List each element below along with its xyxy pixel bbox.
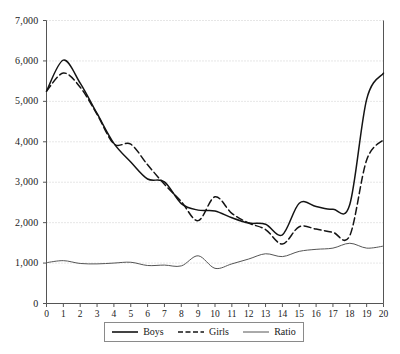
legend-label: Boys [143, 327, 164, 337]
data-series [47, 60, 384, 269]
legend-entry-girls[interactable]: Girls [178, 327, 229, 337]
series-line-girls [47, 73, 384, 244]
y-tick-label: 2,000 [0, 218, 39, 228]
y-tick-label: 0 [0, 299, 39, 309]
legend-swatch-boys-icon [112, 328, 138, 336]
y-tick-label: 4,000 [0, 137, 39, 147]
y-tick-label: 5,000 [0, 96, 39, 106]
legend-entry-ratio[interactable]: Ratio [243, 327, 296, 337]
series-line-boys [47, 60, 384, 235]
legend-swatch-girls-icon [178, 328, 204, 336]
chart-legend: BoysGirlsRatio [104, 322, 304, 342]
y-tick-label: 7,000 [0, 16, 39, 26]
legend-entry-boys[interactable]: Boys [112, 327, 164, 337]
gridlines [47, 21, 384, 264]
y-tick-label: 1,000 [0, 258, 39, 268]
line-chart: 01,0002,0003,0004,0005,0006,0007,000 012… [0, 0, 400, 354]
plot-area [0, 0, 400, 354]
y-tick-label: 3,000 [0, 177, 39, 187]
legend-label: Ratio [274, 327, 296, 337]
series-line-ratio [47, 243, 384, 268]
axis-lines [47, 21, 384, 304]
legend-swatch-ratio-icon [243, 328, 269, 336]
x-tick-label: 20 [374, 309, 394, 319]
y-tick-label: 6,000 [0, 56, 39, 66]
legend-label: Girls [209, 327, 229, 337]
